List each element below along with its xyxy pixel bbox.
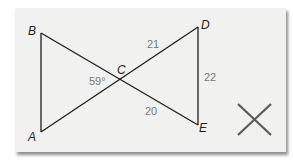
length-label-ce: 20: [145, 105, 157, 117]
vertex-label-d: D: [201, 18, 210, 32]
vertex-label-b: B: [28, 24, 36, 38]
figure-stage: B A C D E 59° 21 22 20: [0, 0, 293, 163]
length-label-de: 22: [204, 71, 216, 83]
vertex-label-c: C: [117, 63, 126, 77]
x-mark-icon: [238, 104, 271, 135]
angle-label-acb: 59°: [89, 75, 106, 87]
vertex-label-a: A: [27, 130, 36, 144]
bowtie-triangle-diagram: B A C D E 59° 21 22 20: [0, 0, 293, 163]
vertex-label-e: E: [199, 121, 208, 135]
length-label-cd: 21: [147, 38, 159, 50]
segment-ad: [41, 27, 198, 132]
